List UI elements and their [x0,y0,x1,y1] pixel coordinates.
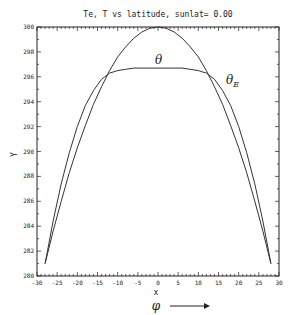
chart: Te, T vs latitude, sunlat= 0.00 -30-25-2… [0,0,289,315]
y-tick-label: 292 [23,123,34,130]
y-tick-label: 288 [23,172,34,179]
x-tick-label: 15 [215,279,223,286]
x-tick-label: 10 [195,279,203,286]
x-tick-label: 25 [255,279,263,286]
y-tick-label: 298 [23,48,34,55]
x-axis-tick-labels: -30-25-20-15-10-5051015202530 [32,279,283,286]
x-tick-label: -25 [52,279,63,286]
y-tick-label: 286 [23,197,34,204]
phi-symbol: φ [152,299,161,313]
x-tick-label: -10 [112,279,123,286]
y-tick-label: 284 [23,222,34,229]
x-tick-label: 30 [275,279,283,286]
x-tick-label: -30 [32,279,43,286]
y-tick-label: 290 [23,148,34,155]
arrow-right-icon [204,303,210,309]
y-axis-label: Y [10,152,19,157]
x-tick-label: 0 [156,279,160,286]
x-tick-label: 5 [176,279,180,286]
x-tick-label: -15 [92,279,103,286]
x-tick-label: 20 [235,279,243,286]
y-tick-label: 294 [23,98,34,105]
theta-e-label: θE [226,73,239,89]
y-tick-label: 280 [23,272,34,279]
x-tick-label: -20 [72,279,83,286]
x-axis-label: x [154,288,159,297]
chart-title: Te, T vs latitude, sunlat= 0.00 [83,10,232,19]
y-tick-label: 296 [23,73,34,80]
y-tick-label: 282 [23,247,34,254]
y-axis-tick-labels: 280282284286288290292294296298300 [23,23,34,279]
y-tick-label: 300 [23,23,34,30]
theta-curve [45,68,271,264]
x-tick-label: -5 [134,279,142,286]
theta-label: θ [155,53,163,67]
